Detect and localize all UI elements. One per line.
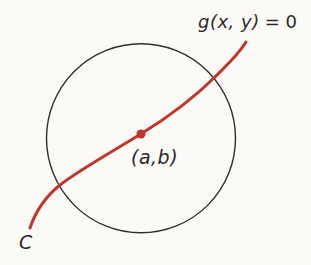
diagram-figure	[0, 0, 311, 265]
equation-function-text: g(x, y)	[198, 11, 260, 32]
point-a-b-marker	[137, 130, 146, 139]
equation-equals-zero-text: = 0	[265, 11, 297, 32]
point-coordinates-label: (a,b)	[131, 146, 178, 168]
curve-label: C	[19, 231, 32, 253]
diagram-canvas: g(x, y)= 0 (a,b) C	[0, 0, 311, 265]
constraint-equation-label: g(x, y)= 0	[198, 11, 297, 32]
